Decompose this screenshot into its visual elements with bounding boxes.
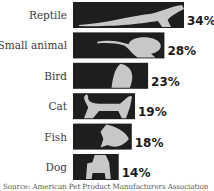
value-label: 23% (151, 75, 180, 89)
value-label: 28% (167, 44, 196, 58)
category-label: Fish (44, 131, 67, 143)
category-label: Reptile (29, 9, 67, 21)
bar-group: Reptile34% (29, 2, 214, 28)
bar-chart: Reptile34%Small animal28%Bird23%Cat19%Fi… (0, 0, 214, 191)
bar (73, 63, 148, 89)
value-label: 14% (122, 166, 151, 180)
value-label: 34% (187, 14, 214, 28)
value-label: 18% (135, 136, 164, 150)
bar-group: Bird23% (44, 63, 180, 89)
category-label: Small animal (0, 39, 68, 51)
value-label: 19% (138, 105, 167, 119)
bar-group: Cat19% (48, 93, 166, 119)
bar-group: Fish18% (44, 124, 163, 150)
bar-group: Small animal28% (0, 32, 196, 58)
category-label: Dog (46, 161, 68, 173)
category-label: Bird (44, 70, 67, 82)
source-note: Source: American Pet Product Manufacture… (3, 182, 208, 191)
bar-group: Dog14% (46, 154, 151, 180)
category-label: Cat (48, 100, 67, 112)
